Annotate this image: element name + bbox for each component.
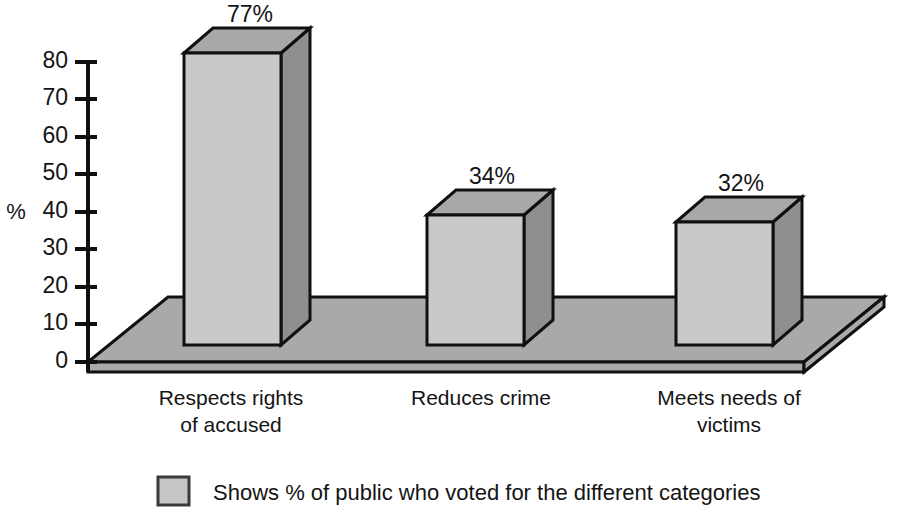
- bar-2-side-face: [524, 190, 553, 345]
- y-axis-tick-label-0: 0: [55, 347, 68, 373]
- y-axis-tick-label-10: 10: [42, 309, 68, 335]
- floor-front-lip: [88, 362, 804, 372]
- category-label-2-line-1: Reduces crime: [411, 386, 551, 409]
- bar-3-value-label: 32%: [718, 170, 764, 196]
- bar-3d-respects-rights-of-accused[interactable]: [184, 28, 310, 345]
- bar-1-front-face: [184, 53, 281, 345]
- bar-chart-3d: 80 70 60 50 40 30 20 10 0 % 77% 34% 32% …: [0, 0, 902, 520]
- category-label-3-line-1: Meets needs of: [657, 386, 801, 409]
- bar-2-value-label: 34%: [469, 163, 515, 189]
- bar-3-front-face: [676, 222, 773, 345]
- x-axis-category-labels: Respects rights of accused Reduces crime…: [159, 386, 801, 436]
- y-axis-tick-label-80: 80: [42, 47, 68, 73]
- y-axis: 80 70 60 50 40 30 20 10 0 %: [6, 47, 97, 373]
- y-axis-tick-label-70: 70: [42, 84, 68, 110]
- bar-3d-reduces-crime[interactable]: [427, 190, 553, 345]
- y-axis-tick-label-60: 60: [42, 122, 68, 148]
- chart-legend: Shows % of public who voted for the diff…: [158, 477, 760, 505]
- legend-label-series-1: Shows % of public who voted for the diff…: [213, 480, 760, 505]
- category-label-1-line-2: of accused: [180, 413, 282, 436]
- category-label-3-line-2: victims: [697, 413, 761, 436]
- legend-swatch-series-1: [158, 477, 189, 505]
- bar-1-side-face: [281, 28, 310, 345]
- bar-2-front-face: [427, 215, 524, 345]
- y-axis-tick-label-30: 30: [42, 234, 68, 260]
- bar-3d-meets-needs-of-victims[interactable]: [676, 197, 802, 345]
- category-label-1-line-1: Respects rights: [159, 386, 304, 409]
- bar-1-value-label: 77%: [227, 1, 273, 27]
- y-axis-tick-label-40: 40: [42, 197, 68, 223]
- y-axis-tick-label-20: 20: [42, 272, 68, 298]
- y-axis-title: %: [6, 199, 26, 224]
- y-axis-tick-label-50: 50: [42, 159, 68, 185]
- chart-page: 80 70 60 50 40 30 20 10 0 % 77% 34% 32% …: [0, 0, 902, 520]
